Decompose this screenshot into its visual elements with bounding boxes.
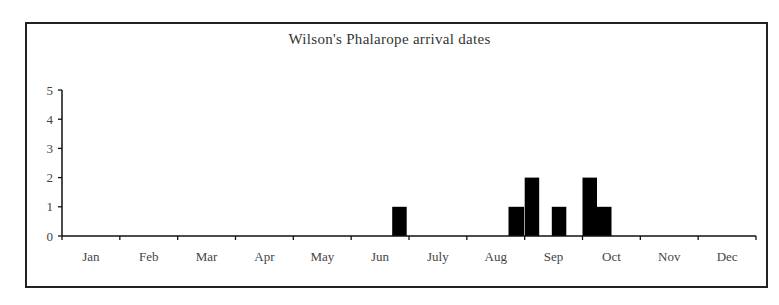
y-tick-label: 4: [47, 112, 54, 127]
x-tick-label: Dec: [717, 249, 738, 264]
chart-plot: 012345JanFebMarAprMayJunJulyAugSepOctNov…: [0, 0, 779, 305]
x-tick-label: Apr: [254, 249, 275, 264]
x-tick-label: Mar: [196, 249, 218, 264]
x-tick-label: Sep: [544, 249, 564, 264]
bar: [552, 207, 567, 236]
x-tick-label: Jun: [371, 249, 390, 264]
x-tick-label: May: [310, 249, 334, 264]
x-tick-label: Jan: [82, 249, 100, 264]
y-tick-label: 2: [47, 170, 54, 185]
x-tick-label: Aug: [485, 249, 508, 264]
bar: [597, 207, 612, 236]
bar: [509, 207, 525, 236]
bar: [583, 178, 598, 236]
y-tick-label: 5: [47, 83, 54, 98]
bar: [392, 207, 407, 236]
x-tick-label: Nov: [658, 249, 681, 264]
x-tick-label: Feb: [139, 249, 159, 264]
y-tick-label: 1: [47, 199, 54, 214]
y-tick-label: 3: [47, 141, 54, 156]
bar: [525, 178, 540, 236]
x-tick-label: Oct: [602, 249, 621, 264]
y-tick-label: 0: [47, 229, 54, 244]
x-tick-label: July: [427, 249, 449, 264]
